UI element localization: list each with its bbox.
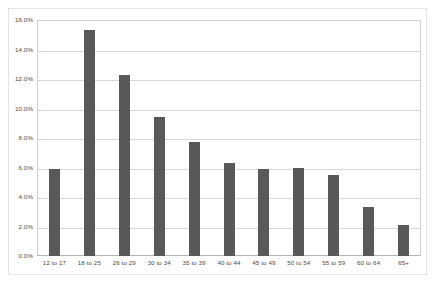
- x-tick-label: 50 to 54: [281, 258, 316, 267]
- bar: [293, 168, 304, 257]
- bar: [49, 169, 60, 256]
- y-tick-label: 6.0%: [18, 164, 33, 172]
- y-tick-label: 4.0%: [18, 193, 33, 201]
- x-tick-label: 60 to 64: [351, 258, 386, 267]
- x-tick-label: 65+: [386, 258, 421, 267]
- bar: [119, 75, 130, 256]
- x-tick-label: 55 to 59: [316, 258, 351, 267]
- bar: [224, 163, 235, 256]
- bar: [398, 225, 409, 256]
- y-axis: 16.0%14.0%12.0%10.0%8.0%6.0%4.0%2.0%0.0%: [0, 0, 37, 283]
- bar: [328, 175, 339, 256]
- x-tick-label: 40 to 44: [212, 258, 247, 267]
- y-tick-label: 16.0%: [15, 16, 33, 24]
- bar: [189, 142, 200, 256]
- x-tick-label: 26 to 29: [107, 258, 142, 267]
- y-tick-label: 2.0%: [18, 223, 33, 231]
- x-axis: 12 to 1718 to 2526 to 2930 to 3435 to 39…: [37, 258, 421, 272]
- bar: [258, 169, 269, 256]
- x-tick-label: 30 to 34: [142, 258, 177, 267]
- bar: [363, 207, 374, 256]
- y-tick-label: 14.0%: [15, 46, 33, 54]
- y-tick-label: 12.0%: [15, 75, 33, 83]
- x-tick-label: 45 to 49: [246, 258, 281, 267]
- bar-chart-figure: 16.0%14.0%12.0%10.0%8.0%6.0%4.0%2.0%0.0%…: [0, 0, 434, 283]
- y-tick-label: 8.0%: [18, 134, 33, 142]
- bar: [154, 117, 165, 256]
- bars-layer: [37, 20, 421, 256]
- bar: [84, 30, 95, 256]
- x-tick-label: 35 to 39: [177, 258, 212, 267]
- y-tick-label: 10.0%: [15, 105, 33, 113]
- y-tick-label: 0.0%: [18, 252, 33, 260]
- x-tick-label: 12 to 17: [37, 258, 72, 267]
- x-tick-label: 18 to 25: [72, 258, 107, 267]
